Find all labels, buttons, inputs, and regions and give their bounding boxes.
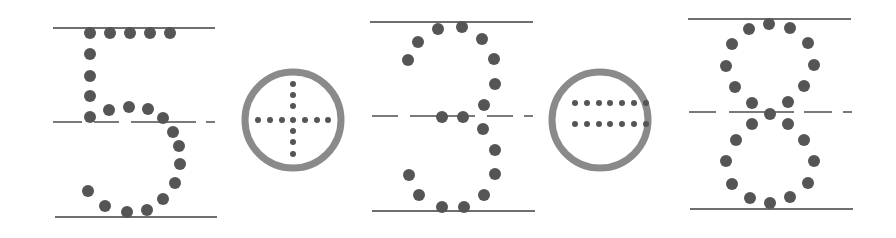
trace-dot: [746, 118, 758, 130]
trace-dot: [746, 97, 758, 109]
trace-dot: [744, 192, 756, 204]
trace-dot: [720, 60, 732, 72]
trace-dot: [808, 59, 820, 71]
trace-dot: [764, 108, 776, 120]
trace-dot: [798, 134, 810, 146]
trace-dot: [730, 134, 742, 146]
trace-dot: [784, 22, 796, 34]
trace-dot: [764, 197, 776, 209]
trace-dot: [802, 37, 814, 49]
trace-dot: [726, 178, 738, 190]
trace-dot: [729, 81, 741, 93]
trace-dot: [743, 23, 755, 35]
trace-dot: [808, 155, 820, 167]
trace-dot: [726, 38, 738, 50]
trace-dot: [784, 191, 796, 203]
tracing-worksheet: 5 + 3 = 8: [0, 0, 896, 238]
digit-8-dots: [0, 0, 896, 238]
trace-dot: [798, 80, 810, 92]
trace-dot: [782, 118, 794, 130]
trace-dot: [720, 155, 732, 167]
trace-dot: [782, 96, 794, 108]
trace-dot: [763, 18, 775, 30]
trace-dot: [802, 177, 814, 189]
